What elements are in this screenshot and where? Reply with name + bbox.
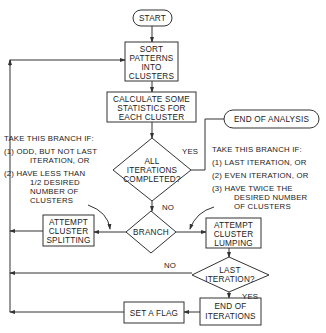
cluster-splitting-box: ATTEMPT CLUSTER SPLITTING [43,215,94,246]
end-analysis-label: END OF ANALYSIS [234,115,310,124]
yes-label-last-iteration: YES [242,292,258,301]
right-annotation-line-2: (1) LAST ITERATION, OR [212,158,307,167]
enditer-line-1: END OF [214,302,246,311]
left-annotation-line-3: ITERATION, OR [30,156,90,165]
lump-line-2: CLUSTER [214,230,254,239]
sort-line-3: INTO [141,63,161,72]
no-label-last-iteration: NO [164,261,176,270]
no-label-all-iterations: NO [162,203,174,212]
left-annotation-line-1: TAKE THIS BRANCH IF: [4,134,94,143]
decision-line-3: COMPLETED? [123,175,181,184]
start-label: START [139,14,166,23]
right-annotation-line-3: (2) EVEN ITERATION, OR [212,171,309,180]
decision-line-1: ALL [144,157,159,166]
left-annotation-line-4: (2) HAVE LESS THAN [4,169,85,178]
left-branch-annotation: TAKE THIS BRANCH IF: (1) ODD, BUT NOT LA… [4,134,97,205]
end-of-iterations-box: END OF ITERATIONS [200,298,261,325]
split-line-2: CLUSTER [49,227,89,236]
lump-line-3: LUMPING [214,239,253,248]
sort-line-4: CLUSTERS [129,72,175,81]
sort-patterns-box: SORT PATTERNS INTO CLUSTERS [125,42,178,81]
yes-label-all-iterations: YES [182,147,198,156]
sort-line-1: SORT [140,45,163,54]
all-iterations-decision: ALL ITERATIONS COMPLETED? [113,138,191,201]
decision-line-2: ITERATIONS [127,166,178,175]
last-line-2: ITERATION? [205,275,255,284]
right-annotation-line-6: OF CLUSTERS [234,202,291,211]
right-annotation-line-5: DESIRED NUMBER [234,193,308,202]
sort-line-2: PATTERNS [129,54,173,63]
set-flag-box: SET A FLAG [124,302,184,323]
left-annotation-line-6: NUMBER OF [30,187,79,196]
split-line-3: SPLITTING [46,236,90,245]
last-line-1: LAST [219,266,240,275]
branch-decision: BRANCH [126,211,176,253]
enditer-line-2: ITERATIONS [205,312,256,321]
right-annotation-line-4: (3) HAVE TWICE THE [212,184,293,193]
left-annotation-line-2: (1) ODD, BUT NOT LAST [4,147,97,156]
right-annotation-line-1: TAKE THIS BRANCH IF: [212,145,302,154]
right-branch-annotation: TAKE THIS BRANCH IF: (1) LAST ITERATION,… [212,145,309,211]
left-annotation-line-7: CLUSTERS [30,196,73,205]
lump-line-1: ATTEMPT [214,221,253,230]
set-flag-label: SET A FLAG [130,309,178,318]
calc-line-1: CALCULATE SOME [113,95,190,104]
calc-line-2: STATISTICS FOR [117,104,185,113]
calc-line-3: EACH CLUSTER [119,113,185,122]
left-annotation-line-5: 1/2 DESIRED [30,178,80,187]
cluster-lumping-box: ATTEMPT CLUSTER LUMPING [206,218,261,248]
branch-label: BRANCH [133,228,169,237]
split-line-1: ATTEMPT [49,218,88,227]
calculate-statistics-box: CALCULATE SOME STATISTICS FOR EACH CLUST… [107,92,196,122]
flowchart: START SORT PATTERNS INTO CLUSTERS CALCUL… [0,0,326,333]
end-of-analysis-node: END OF ANALYSIS [224,110,319,128]
start-node: START [133,10,172,26]
last-iteration-decision: LAST ITERATION? [192,257,269,292]
